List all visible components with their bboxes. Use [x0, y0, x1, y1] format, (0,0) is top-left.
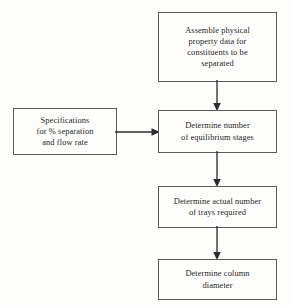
flowchart-arrow-equilibrium-to-trays: [205, 151, 229, 188]
flowchart-node-equilibrium-stages[interactable]: Determine number of equilibrium stages: [158, 110, 277, 153]
flowchart-node-specifications[interactable]: Specifications for % separation and flow…: [13, 108, 117, 155]
flowchart-arrow-specifications-to-equilibrium: [115, 120, 161, 144]
flowchart-node-actual-trays[interactable]: Determine actual number of trays require…: [158, 186, 277, 228]
flowchart-node-column-diameter[interactable]: Determine column diameter: [158, 259, 277, 300]
flowchart-arrow-trays-to-diameter: [205, 226, 229, 261]
flowchart-node-assemble[interactable]: Assemble physical property data for cons…: [158, 12, 277, 82]
flowchart-canvas: Assemble physical property data for cons…: [0, 0, 292, 306]
flowchart-arrow-assemble-to-equilibrium: [205, 80, 229, 112]
